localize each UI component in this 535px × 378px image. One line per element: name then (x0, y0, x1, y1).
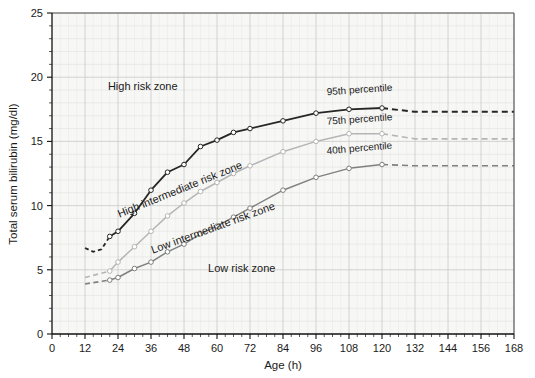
y-axis-title: Total serum bilirubin (mg/dl) (7, 103, 19, 244)
data-point-marker (231, 130, 236, 135)
x-tick-label: 84 (277, 342, 289, 354)
data-point-marker (380, 131, 385, 136)
data-point-marker (107, 269, 112, 274)
x-tick-label: 132 (406, 342, 424, 354)
y-tick-label: 5 (37, 264, 43, 276)
x-tick-label: 24 (112, 342, 124, 354)
data-point-marker (380, 162, 385, 167)
data-point-marker (182, 201, 187, 206)
x-tick-label: 156 (472, 342, 490, 354)
data-point-marker (281, 149, 286, 154)
data-point-marker (248, 163, 253, 168)
data-point-marker (116, 229, 121, 234)
x-tick-label: 48 (178, 342, 190, 354)
data-point-marker (347, 107, 352, 112)
data-point-marker (165, 214, 170, 219)
low-risk-zone-label: Low risk zone (208, 262, 275, 274)
x-tick-label: 60 (211, 342, 223, 354)
y-tick-label: 0 (37, 328, 43, 340)
data-point-marker (281, 119, 286, 124)
data-point-marker (198, 144, 203, 149)
data-point-marker (149, 260, 154, 265)
data-point-marker (182, 162, 187, 167)
x-axis-title: Age (h) (264, 359, 302, 371)
x-tick-label: 0 (49, 342, 55, 354)
bilirubin-nomogram-figure: High risk zoneHigh intermediate risk zon… (0, 0, 535, 378)
data-point-marker (314, 139, 319, 144)
data-point-marker (347, 166, 352, 171)
data-point-marker (149, 229, 154, 234)
data-point-marker (132, 266, 137, 271)
data-point-marker (116, 275, 121, 280)
x-tick-label: 168 (505, 342, 523, 354)
y-tick-label: 10 (31, 200, 43, 212)
data-point-marker (314, 111, 319, 116)
data-point-marker (132, 244, 137, 249)
x-tick-label: 36 (145, 342, 157, 354)
x-tick-label: 120 (373, 342, 391, 354)
x-tick-label: 108 (340, 342, 358, 354)
data-point-marker (149, 188, 154, 193)
high-risk-zone-label: High risk zone (108, 80, 178, 92)
y-tick-label: 25 (31, 7, 43, 19)
x-tick-label: 12 (79, 342, 91, 354)
data-point-marker (314, 175, 319, 180)
y-tick-label: 20 (31, 71, 43, 83)
data-point-marker (116, 260, 121, 265)
y-tick-label: 15 (31, 135, 43, 147)
data-point-marker (248, 126, 253, 131)
x-tick-label: 96 (310, 342, 322, 354)
data-point-marker (380, 106, 385, 111)
data-point-marker (107, 234, 112, 239)
chart-canvas: High risk zoneHigh intermediate risk zon… (0, 0, 535, 378)
data-point-marker (107, 278, 112, 283)
data-point-marker (281, 188, 286, 193)
data-point-marker (165, 170, 170, 175)
data-point-marker (198, 189, 203, 194)
data-point-marker (347, 131, 352, 136)
x-tick-label: 72 (244, 342, 256, 354)
data-point-marker (215, 138, 220, 143)
x-tick-label: 144 (439, 342, 457, 354)
